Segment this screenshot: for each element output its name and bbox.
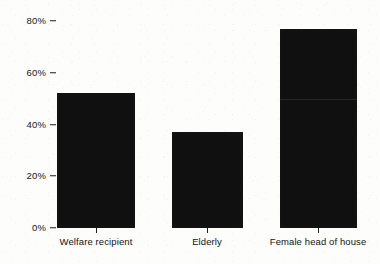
y-axis-tick-dash-20	[50, 176, 56, 177]
bar-female-head-of-house	[280, 29, 357, 228]
y-axis-tick-label-80: 80%	[27, 16, 46, 26]
y-axis-tick-label-0: 0%	[32, 223, 46, 233]
x-axis-tick-elderly	[207, 228, 208, 233]
x-axis-label-welfare-recipient: Welfare recipient	[60, 236, 133, 247]
x-axis-label-female-head-of-house: Female head of house	[270, 236, 367, 247]
x-axis-tick-welfare-recipient	[96, 228, 97, 233]
y-axis-tick-dash-80	[50, 21, 56, 22]
y-axis-tick-label-20: 20%	[27, 171, 46, 181]
bar-elderly	[172, 132, 243, 228]
y-axis-tick-80: 80%	[0, 16, 56, 26]
y-axis-tick-dash-60	[50, 73, 56, 74]
plot-area: 80% 60% 40% 20% 0% Welfare recipi	[0, 0, 380, 264]
y-axis-tick-0: 0%	[0, 223, 56, 233]
y-axis-tick-dash-40	[50, 125, 56, 126]
y-axis-tick-label-60: 60%	[27, 68, 46, 78]
y-axis-tick-label-40: 40%	[27, 120, 46, 130]
x-axis-label-elderly: Elderly	[192, 236, 222, 247]
y-axis-tick-20: 20%	[0, 171, 56, 181]
y-axis-tick-40: 40%	[0, 120, 56, 130]
bar-welfare-recipient	[57, 93, 135, 228]
bar-chart: 80% 60% 40% 20% 0% Welfare recipi	[0, 0, 380, 264]
y-axis-tick-60: 60%	[0, 68, 56, 78]
y-axis-tick-dash-0	[50, 228, 56, 229]
x-axis-tick-female-head-of-house	[318, 228, 319, 233]
